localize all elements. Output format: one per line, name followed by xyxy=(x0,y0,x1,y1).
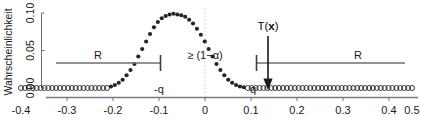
data-point xyxy=(175,12,179,16)
data-point xyxy=(164,14,168,18)
x-tick-label-0: -0.4 xyxy=(12,104,31,116)
data-point xyxy=(124,73,128,77)
data-point xyxy=(187,18,191,22)
x-tick-label-1: -0.3 xyxy=(58,104,77,116)
data-point xyxy=(109,84,113,88)
data-point xyxy=(140,47,144,51)
tstat-suffix: ) xyxy=(275,20,279,32)
x-tick-label-8: 0.4 xyxy=(381,104,396,116)
data-point xyxy=(113,83,117,87)
data-point xyxy=(203,39,207,43)
data-point xyxy=(230,81,234,85)
data-point xyxy=(160,16,164,20)
y-axis: 0.00 0.05 0.10 xyxy=(24,3,45,99)
right-quantile-label: q xyxy=(250,83,256,95)
probability-distribution-figure: Wahrscheinlichkeit 0.00 0.05 0.10 xyxy=(0,0,421,122)
data-point xyxy=(226,78,230,82)
x-tick-label-3: -0.1 xyxy=(150,104,169,116)
plot-canvas: Wahrscheinlichkeit 0.00 0.05 0.10 xyxy=(0,0,421,122)
y-tick-label-1: 0.05 xyxy=(24,40,36,61)
x-tick-label-2: -0.2 xyxy=(104,104,123,116)
acceptance-region-points xyxy=(109,12,246,90)
x-tick-label-7: 0.3 xyxy=(335,104,350,116)
left-rejection-bar xyxy=(56,55,161,71)
data-point xyxy=(152,25,156,29)
x-axis: -0.4 -0.3 -0.2 -0.1 0 0.1 0.2 0.3 0.4 0.… xyxy=(12,98,420,117)
data-point xyxy=(242,85,246,89)
data-point xyxy=(156,20,160,24)
data-point xyxy=(144,39,148,43)
data-point xyxy=(128,68,132,72)
data-point xyxy=(218,68,222,72)
data-point xyxy=(222,73,226,77)
x-tick-label-9: 0.5 xyxy=(404,104,419,116)
rejection-region-points-right xyxy=(245,86,414,91)
y-tick-label-2: 0.10 xyxy=(24,3,36,24)
data-point xyxy=(191,21,195,25)
right-region-label: R xyxy=(354,49,362,61)
left-quantile-label: -q xyxy=(154,83,164,95)
right-rejection-bar xyxy=(256,55,405,71)
data-point xyxy=(234,83,238,87)
data-point xyxy=(214,62,218,66)
data-point xyxy=(171,12,175,16)
data-point xyxy=(183,15,187,19)
x-tick-label-4: 0 xyxy=(202,104,208,116)
data-point xyxy=(121,78,125,82)
left-region-label: R xyxy=(94,49,102,61)
x-tick-label-6: 0.2 xyxy=(289,104,304,116)
test-statistic-label: T(x) xyxy=(257,20,278,32)
data-point xyxy=(195,27,199,31)
data-point xyxy=(117,81,121,85)
data-point xyxy=(148,32,152,36)
tstat-prefix: T( xyxy=(257,20,268,32)
data-point xyxy=(179,13,183,17)
x-tick-label-5: 0.1 xyxy=(243,104,258,116)
y-axis-label: Wahrscheinlichkeit xyxy=(2,8,14,95)
data-point xyxy=(238,84,242,88)
data-point xyxy=(167,12,171,16)
data-point xyxy=(136,54,140,58)
confidence-annotation: ≥ (1−α) xyxy=(187,49,222,61)
data-point xyxy=(199,33,203,37)
